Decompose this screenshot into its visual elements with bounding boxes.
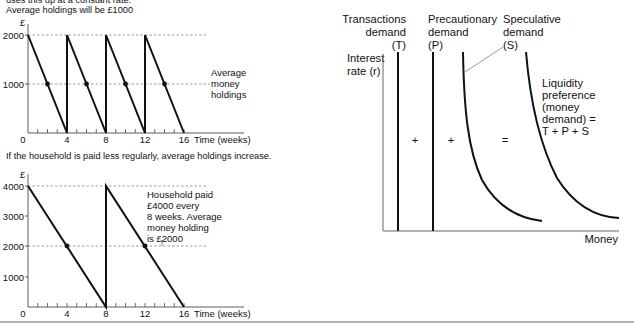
chart-1-ytick-2000: 2000 [3,30,24,41]
s-label-pointer [465,47,503,72]
equals-operator: = [502,134,509,146]
chart-1-annotation-line3: holdings [211,89,247,100]
chart-1-annotation-line1: Average [211,67,246,78]
lp-label-line1: Liquidity [542,77,583,89]
chart-1-ytick-1000: 1000 [3,79,24,90]
lp-label-line2: preference [542,89,596,101]
chart-1: £ 2000 1000 0 4 8 12 16 Time (weeks) Ave… [3,17,251,145]
chart-1-y-unit: £ [20,17,26,28]
chart-2-annotation-line1: Household paid [147,189,213,200]
chart-2-xtick-8: 8 [103,308,108,319]
chart-2-annotation-line3: 8 weeks. Average [147,211,222,222]
chart-2-xtick-16: 16 [179,308,190,319]
chart-2: £ 4000 3000 2000 1000 0 4 8 12 16 Time (… [3,169,251,319]
plus-operator-2: + [448,134,455,146]
lp-label-line4: demand) = [542,113,596,125]
chart-1-xtick-8: 8 [103,134,108,145]
chart-2-ytick-4000: 4000 [3,181,24,192]
chart-2-annotation-line5: is £2000 [147,233,183,244]
chart-1-xtick-4: 4 [64,134,69,145]
s-label-line3: (S) [503,39,518,51]
chart-2-x-label: Time (weeks) [194,308,251,319]
figure-canvas: uses this up at a constant rate. Average… [0,0,634,331]
s-label-line2: demand [503,26,543,38]
s-label-line1: Speculative [503,13,561,25]
chart-1-xtick-16: 16 [179,134,190,145]
chart-2-ytick-3000: 3000 [3,211,24,222]
lp-label-line5: T + P + S [542,125,589,137]
t-label-line2: demand [366,26,406,38]
chart-3-x-label: Money [584,233,618,245]
top-caption-line2: Average holdings will be £1000 [6,5,133,15]
y-label-line1: Interest [347,52,385,64]
chart-1-x-ticks [38,129,184,133]
chart-2-annotation-line2: £4000 every [147,200,200,211]
chart-1-xtick-12: 12 [140,134,151,145]
chart-3: Transactions demand (T) Precautionary de… [342,13,619,245]
p-label-line1: Precautionary [428,13,497,25]
chart-2-x-ticks [38,303,184,307]
p-label-line3: (P) [428,39,443,51]
chart-2-annotation-line4: money holding [147,222,209,233]
chart-1-x-label: Time (weeks) [194,134,251,145]
chart-2-ytick-1000: 1000 [3,272,24,283]
chart-1-xtick-0: 0 [20,134,25,145]
lp-label-line3: (money [542,101,580,113]
chart-2-ytick-2000: 2000 [3,241,24,252]
chart-2-xtick-4: 4 [64,308,69,319]
chart-2-xtick-0: 0 [20,308,25,319]
chart-1-annotation-line2: money [211,78,240,89]
plus-operator-1: + [412,134,419,146]
y-label-line2: rate (r) [347,65,381,77]
chart-2-y-unit: £ [20,169,26,180]
p-label-line2: demand [428,26,468,38]
chart-2-xtick-12: 12 [140,308,151,319]
t-label-line1: Transactions [342,13,406,25]
middle-caption: If the household is paid less regularly,… [6,151,271,161]
t-label-line3: (T) [392,39,407,51]
